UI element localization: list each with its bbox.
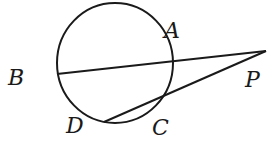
- secant-bp: [57, 51, 266, 74]
- label-c: C: [152, 115, 169, 140]
- label-p: P: [244, 67, 261, 92]
- label-a: A: [162, 18, 180, 43]
- secant-pd: [104, 51, 266, 122]
- label-d: D: [65, 113, 84, 138]
- label-b: B: [7, 65, 24, 90]
- geometry-diagram: A B P D C: [0, 0, 272, 152]
- diagram-canvas: A B P D C: [0, 0, 272, 152]
